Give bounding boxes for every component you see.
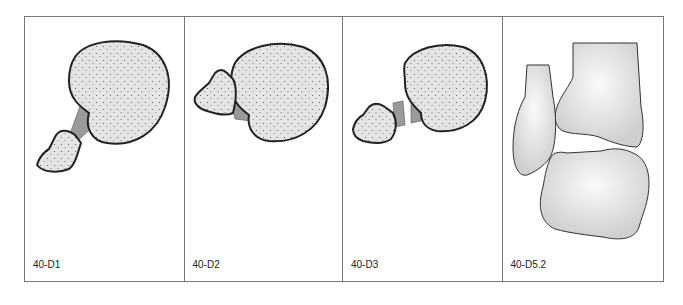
panel-label: 40-D5.2 xyxy=(511,259,547,270)
ankle-joint-illustration xyxy=(503,17,664,283)
ligament-rupture-illustration xyxy=(343,17,503,283)
panel-40-d1: 40-D1 xyxy=(25,17,185,281)
panel-40-d3: 40-D3 xyxy=(343,17,503,281)
figure-frame: 40-D1 40-D2 40-D3 40-D5.2 xyxy=(24,16,664,282)
avulsion-long-ligament-illustration xyxy=(25,17,185,283)
panel-40-d2: 40-D2 xyxy=(185,17,344,281)
panel-label: 40-D3 xyxy=(351,259,378,270)
panel-label: 40-D1 xyxy=(33,259,60,270)
panel-label: 40-D2 xyxy=(193,259,220,270)
panel-40-d5-2: 40-D5.2 xyxy=(503,17,664,281)
avulsion-short-ligament-illustration xyxy=(185,17,344,283)
